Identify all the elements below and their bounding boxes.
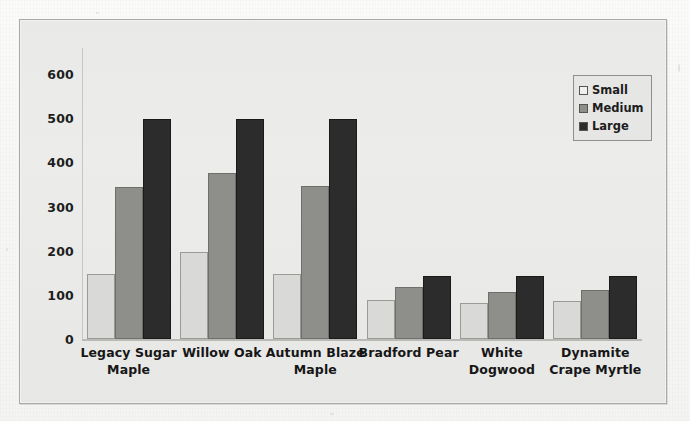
bar-medium[interactable] — [208, 173, 236, 339]
legend-swatch-medium-icon — [579, 104, 588, 113]
bar-large[interactable] — [609, 276, 637, 339]
y-axis-tick-label: 500 — [20, 111, 74, 126]
bar-large[interactable] — [143, 119, 171, 339]
bar-group — [273, 24, 357, 339]
x-axis-line — [82, 339, 642, 341]
bar-small[interactable] — [273, 274, 301, 339]
scan-speck — [96, 12, 99, 14]
bar-medium[interactable] — [301, 186, 329, 339]
x-axis-category-label: Bradford Pear — [357, 344, 460, 361]
y-axis-tick-label: 200 — [20, 243, 74, 258]
bar-small[interactable] — [553, 301, 581, 339]
y-axis: 0100200300400500600 — [20, 20, 82, 405]
bar-group — [87, 24, 171, 339]
chart-frame: 0100200300400500600 Legacy Sugar MapleWi… — [19, 19, 667, 404]
bar-medium[interactable] — [488, 292, 516, 339]
bar-small[interactable] — [87, 274, 115, 339]
bar-group — [553, 24, 637, 339]
legend-item[interactable]: Medium — [579, 99, 644, 117]
bar-medium[interactable] — [581, 290, 609, 339]
bar-large[interactable] — [329, 119, 357, 339]
scanned-page-background: 0100200300400500600 Legacy Sugar MapleWi… — [0, 0, 690, 421]
bar-small[interactable] — [460, 303, 488, 339]
bar-small[interactable] — [180, 252, 208, 339]
legend-item-label: Medium — [592, 101, 644, 115]
y-axis-tick-label: 100 — [20, 287, 74, 302]
bar-group — [180, 24, 264, 339]
x-axis: Legacy Sugar MapleWillow OakAutumn Blaze… — [82, 344, 642, 402]
legend-swatch-large-icon — [579, 122, 588, 131]
y-axis-tick-label: 300 — [20, 199, 74, 214]
legend-item[interactable]: Large — [579, 117, 644, 135]
scan-speck — [6, 248, 8, 251]
bar-small[interactable] — [367, 300, 395, 339]
bar-large[interactable] — [236, 119, 264, 339]
bar-group — [367, 24, 451, 339]
bar-group — [460, 24, 544, 339]
y-axis-tick-label: 0 — [20, 332, 74, 347]
y-axis-tick-label: 400 — [20, 155, 74, 170]
legend-swatch-small-icon — [579, 86, 588, 95]
legend-item-label: Small — [592, 83, 628, 97]
x-axis-category-label: White Dogwood — [450, 344, 553, 378]
bar-medium[interactable] — [115, 187, 143, 339]
chart-legend: SmallMediumLarge — [573, 75, 652, 141]
legend-item-label: Large — [592, 119, 629, 133]
x-axis-category-label: Dynamite Crape Myrtle — [544, 344, 647, 378]
bar-large[interactable] — [423, 276, 451, 339]
y-axis-tick-label: 600 — [20, 67, 74, 82]
legend-item[interactable]: Small — [579, 81, 644, 99]
x-axis-category-label: Autumn Blaze Maple — [264, 344, 367, 378]
x-axis-category-label: Willow Oak — [170, 344, 273, 361]
bar-medium[interactable] — [395, 287, 423, 339]
scan-speck — [678, 64, 680, 72]
scan-speck — [330, 413, 334, 415]
x-axis-category-label: Legacy Sugar Maple — [77, 344, 180, 378]
plot-area — [82, 24, 642, 339]
bar-large[interactable] — [516, 276, 544, 339]
